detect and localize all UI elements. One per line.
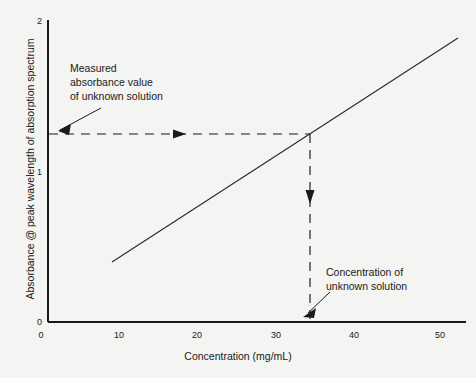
x-tick-label-30: 30 [271,331,281,340]
annotation-measured-absorbance: Measured absorbance value of unknown sol… [70,61,163,103]
concentration-annotation-leader [308,292,330,313]
concentration-annotation-arrow-icon [303,308,316,318]
x-tick-label-40: 40 [349,331,359,340]
annotation-absorbance-line-3: of unknown solution [70,89,163,103]
x-tick-label-10: 10 [114,331,124,340]
x-tick-label-0: 0 [38,331,43,340]
figure-canvas: 0 1 2 0 10 20 30 40 50 Concentration (mg… [0,0,476,378]
down-arrow-icon [306,190,315,204]
x-tick-label-50: 50 [435,331,445,340]
annotation-concentration-line-2: unknown solution [326,279,407,293]
right-arrow-icon [173,130,186,139]
annotation-absorbance-line-1: Measured [70,61,163,75]
calibration-plot [0,0,476,378]
annotation-concentration-line-1: Concentration of [326,265,407,279]
x-axis-title: Concentration (mg/mL) [0,350,476,362]
annotation-absorbance-line-2: absorbance value [70,75,163,89]
x-tick-label-20: 20 [192,331,202,340]
y-axis-title: Absorbance @ peak wavelength of absorpti… [24,9,36,329]
calibration-trend-line [112,38,458,262]
annotation-unknown-concentration: Concentration of unknown solution [326,265,407,293]
